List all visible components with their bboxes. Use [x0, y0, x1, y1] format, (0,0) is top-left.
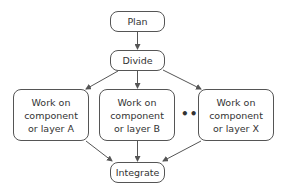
- node-work-b-label: Work on component or layer B: [104, 96, 170, 135]
- node-plan-label: Plan: [127, 15, 147, 28]
- node-work-x-label: Work on component or layer X: [203, 96, 269, 135]
- node-divide-label: Divide: [122, 54, 152, 67]
- node-integrate-label: Integrate: [116, 166, 160, 179]
- node-work-x: Work on component or layer X: [198, 89, 274, 141]
- node-plan: Plan: [110, 11, 165, 32]
- edge-divide-work-x: [163, 70, 201, 89]
- node-divide: Divide: [110, 50, 165, 71]
- node-work-a-label: Work on component or layer A: [18, 96, 84, 135]
- edge-work-a-integrate: [86, 141, 112, 161]
- edge-divide-work-a: [86, 71, 118, 89]
- node-work-b: Work on component or layer B: [99, 89, 175, 141]
- node-integrate: Integrate: [110, 162, 165, 183]
- edge-work-x-integrate: [163, 141, 201, 161]
- node-work-a: Work on component or layer A: [13, 89, 89, 141]
